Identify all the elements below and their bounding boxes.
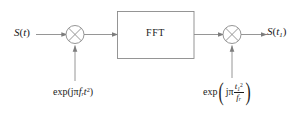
exp-right-denominator: fr [234, 92, 244, 103]
input-close-paren: ) [26, 26, 30, 38]
exp-left-fn: exp [53, 86, 67, 97]
fft-block-label: FFT [117, 28, 194, 38]
exp-right-fn: exp [203, 87, 217, 97]
output-close-paren: ) [283, 25, 287, 37]
exp-right-den-subscript: r [239, 96, 241, 102]
diagram-canvas [0, 0, 299, 121]
exp-left-label: exp(jπfrt2) [53, 87, 93, 98]
signal-flow-diagram: S(t) FFT S(t1) exp(jπfrt2) exp(jπt12fr) [0, 0, 299, 121]
input-signal-label: S(t) [14, 27, 30, 38]
exp-right-numerator: t12 [234, 82, 244, 92]
exp-right-open-paren: ( [219, 82, 224, 103]
exp-right-close-paren: ) [245, 82, 250, 103]
output-signal-label: S(t1) [267, 26, 286, 38]
exp-right-num-exponent: 2 [240, 82, 243, 88]
exp-left-close-paren: ) [90, 86, 93, 97]
exp-right-label: exp(jπt12fr) [203, 82, 252, 103]
exp-right-fraction: t12fr [234, 82, 244, 103]
